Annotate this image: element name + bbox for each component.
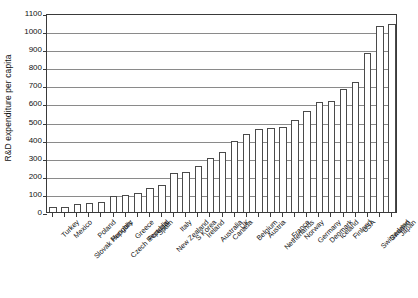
y-tick-label: 700 [29,82,42,90]
y-tick-label: 800 [29,64,42,72]
bars-layer [47,15,396,212]
y-tick-label: 900 [29,46,42,54]
bar [255,129,263,212]
bar [86,203,94,212]
bar [49,207,57,212]
bar [182,172,190,212]
bar [74,204,82,212]
bar [328,101,336,212]
y-tick-label: 400 [29,137,42,145]
bar [388,24,396,212]
bar [303,111,311,212]
bar [364,53,372,212]
bar [376,26,384,212]
bar [110,196,118,212]
bar [122,195,130,212]
bar [243,134,251,212]
y-tick-label: 200 [29,173,42,181]
bar [170,173,178,212]
bar [61,207,69,212]
bar [158,185,166,212]
y-tick-label: 1100 [25,10,42,18]
x-category-label: Spain [156,218,174,236]
bar [146,188,154,212]
y-axis-tick-labels: 010020030040050060070080090010001100 [14,0,42,298]
bar [98,202,106,212]
y-tick-label: 500 [29,119,42,127]
bar [340,89,348,212]
bar [316,102,324,212]
y-tick-label: 1000 [24,28,42,36]
bar [352,82,360,212]
x-axis-category-labels: TurkeyMexicoSlovak RepublicPolandHungary… [46,217,397,298]
bar [207,158,215,212]
bar [291,120,299,212]
y-tick-label: 300 [29,155,42,163]
bar [231,141,239,212]
bar [219,152,227,212]
bar [267,128,275,212]
plot-area [46,14,397,213]
y-tick-label: 100 [29,191,42,199]
bar [134,193,142,212]
bar [279,127,287,212]
y-tick-label: 0 [38,209,42,217]
y-axis-title-text: R&D expenditure per capita [3,54,13,161]
y-tick-label: 600 [29,100,42,108]
bar [195,166,203,212]
